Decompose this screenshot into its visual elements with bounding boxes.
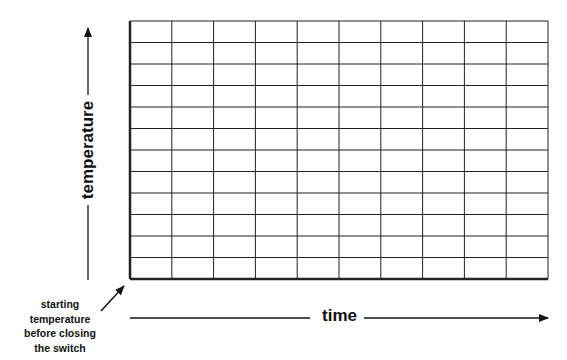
y-axis-label: temperature — [78, 101, 98, 199]
annotation-line: temperature — [10, 312, 110, 327]
annotation-line: starting — [10, 297, 110, 312]
annotation-line: the switch — [10, 341, 110, 356]
grid-lines — [130, 21, 548, 279]
x-axis-label: time — [322, 306, 357, 326]
starting-temperature-annotation: starting temperature before closing the … — [10, 297, 110, 355]
annotation-line: before closing — [10, 326, 110, 341]
